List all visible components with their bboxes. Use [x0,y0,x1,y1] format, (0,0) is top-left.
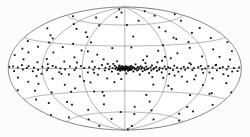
source-point [142,70,144,72]
source-point [48,42,50,44]
source-point [102,91,104,93]
source-point [111,118,113,120]
source-point [138,20,140,22]
source-point [112,63,114,65]
source-point [127,128,129,130]
source-point [187,67,189,69]
source-point [134,106,136,108]
source-point [121,12,123,14]
source-point [133,71,135,73]
source-point [223,73,225,75]
source-point [46,27,48,29]
source-point [237,70,239,72]
source-point [90,41,92,43]
source-point [64,84,66,86]
source-point [180,68,182,70]
source-point [233,67,235,69]
source-point [61,73,63,75]
source-point [215,64,217,66]
source-point [27,81,29,83]
source-point [68,117,70,119]
source-point [13,70,15,72]
source-point [103,103,105,105]
source-point [91,61,93,63]
source-point [21,48,23,50]
source-point [88,66,90,68]
source-point [42,66,44,68]
source-point [50,34,52,36]
source-point [193,67,195,69]
source-point [181,76,183,78]
source-point [94,66,96,68]
source-point [118,8,120,10]
source-point [70,91,72,93]
source-point [144,10,146,12]
source-point [145,66,147,68]
source-point [76,62,78,64]
source-point [17,89,19,91]
source-point [212,77,214,79]
source-point [204,68,206,70]
source-point [117,73,119,75]
source-point [158,27,160,29]
source-point [21,64,23,66]
source-point [173,65,175,67]
source-point [227,41,229,43]
source-point [188,41,190,43]
source-point [74,69,76,71]
source-point [46,58,48,60]
source-point [200,65,202,67]
source-point [139,74,141,76]
source-point [135,63,137,65]
source-point [52,65,54,67]
source-point [162,44,164,46]
source-point [226,69,228,71]
source-point [158,69,160,71]
source-point [177,71,179,73]
source-point [92,69,94,71]
source-point [157,50,159,52]
source-point [151,109,153,111]
source-point [96,54,98,56]
source-point [107,63,109,65]
source-point [12,66,14,68]
source-point [148,68,150,70]
source-point [116,16,118,18]
source-point [141,66,143,68]
source-point [69,66,71,68]
source-point [74,87,76,89]
source-point [228,66,230,68]
source-point [174,75,176,77]
source-point [186,106,188,108]
source-point [87,109,89,111]
source-point [17,77,19,79]
all-sky-scatter-plot [0,0,250,137]
source-point [173,37,175,39]
source-point [80,65,82,67]
source-point [145,94,147,96]
source-point [58,71,60,73]
source-point [105,67,107,69]
source-point [150,66,152,68]
source-point [108,68,110,70]
source-point [157,61,159,63]
source-point [64,68,66,70]
source-point [219,67,221,69]
source-point [138,69,140,71]
source-point [144,69,146,71]
source-point [167,85,169,87]
source-point [119,65,121,67]
source-point [106,78,108,80]
source-point [101,64,103,66]
source-point [167,66,169,68]
source-point [165,30,167,32]
source-point [90,82,92,84]
source-point [197,66,199,68]
source-point [212,48,214,50]
source-point [189,47,191,49]
source-point [72,15,74,17]
source-point [184,69,186,71]
source-point [8,66,10,68]
source-point [50,114,52,116]
source-point [149,101,151,103]
